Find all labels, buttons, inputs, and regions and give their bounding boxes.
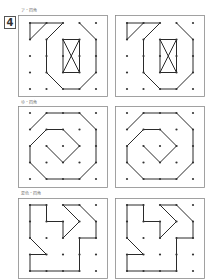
grid-dot	[45, 161, 47, 163]
grid-dot	[126, 128, 128, 130]
grid-dot	[192, 161, 194, 163]
grid-dot	[126, 88, 128, 90]
grid-dot	[192, 22, 194, 24]
grid-dot	[29, 88, 31, 90]
grid-dot	[159, 22, 161, 24]
grid-dot	[159, 128, 161, 130]
grid-dot	[78, 220, 80, 222]
grid-dot	[29, 161, 31, 163]
grid-dot	[29, 55, 31, 57]
grid-panel-2-answer	[116, 107, 205, 188]
grid-dot	[45, 88, 47, 90]
grid-dot	[95, 55, 97, 57]
grid-dot	[159, 204, 161, 206]
grid-dot	[126, 237, 128, 239]
grid-dot	[62, 270, 64, 272]
grid-dot	[29, 253, 31, 255]
grid-dot	[78, 22, 80, 24]
grid-dot	[29, 270, 31, 272]
grid-dot	[142, 204, 144, 206]
grid-dot	[29, 71, 31, 73]
grid-dot	[45, 178, 47, 180]
grid-dot	[159, 71, 161, 73]
grid-dot	[45, 237, 47, 239]
grid-dot	[175, 55, 177, 57]
grid-dot	[62, 38, 64, 40]
grid-dot	[45, 270, 47, 272]
grid-dot	[126, 22, 128, 24]
grid-dot	[142, 253, 144, 255]
grid-dot	[126, 38, 128, 40]
grid-dot	[142, 38, 144, 40]
grid-dot	[78, 128, 80, 130]
grid-dot	[126, 220, 128, 222]
grid-dot	[62, 253, 64, 255]
grid-dot	[95, 253, 97, 255]
grid-dot	[78, 55, 80, 57]
grid-dot	[29, 128, 31, 130]
grid-dot	[159, 220, 161, 222]
grid-dot	[95, 220, 97, 222]
grid-dot	[95, 88, 97, 90]
grid-dot	[29, 237, 31, 239]
grid-dot	[62, 161, 64, 163]
grid-dot	[45, 204, 47, 206]
grid-dot	[175, 237, 177, 239]
grid-dot	[175, 128, 177, 130]
grid-dot	[159, 178, 161, 180]
grid-dot	[45, 253, 47, 255]
grid-dot	[95, 204, 97, 206]
grid-dot	[126, 204, 128, 206]
grid-dot	[78, 112, 80, 114]
grid-dot	[62, 145, 64, 147]
grid-dot	[95, 71, 97, 73]
grid-dot	[192, 253, 194, 255]
grid-dot	[142, 55, 144, 57]
grid-dot	[159, 88, 161, 90]
grid-dot	[126, 71, 128, 73]
grid-dot	[95, 178, 97, 180]
grid-panel-3-model	[19, 199, 108, 279]
grid-dot	[126, 253, 128, 255]
grid-dot	[45, 145, 47, 147]
grid-dot	[29, 178, 31, 180]
grid-dot	[78, 88, 80, 90]
grid-dot	[175, 38, 177, 40]
grid-dot	[159, 253, 161, 255]
grid-dot	[45, 55, 47, 57]
grid-dot	[175, 112, 177, 114]
grid-dot	[159, 55, 161, 57]
grid-dot	[175, 71, 177, 73]
grid-dot	[78, 145, 80, 147]
grid-dot	[192, 220, 194, 222]
grid-dot	[45, 71, 47, 73]
grid-dot	[95, 112, 97, 114]
grid-dot	[78, 237, 80, 239]
grid-dot	[78, 204, 80, 206]
grid-panel-1-answer	[116, 16, 205, 97]
grid-dot	[78, 253, 80, 255]
grid-dot	[142, 71, 144, 73]
grid-dot	[78, 270, 80, 272]
grid-dot	[78, 161, 80, 163]
grid-dot	[126, 270, 128, 272]
grid-dot	[29, 22, 31, 24]
grid-dot	[142, 128, 144, 130]
grid-dot	[45, 22, 47, 24]
dot-grid-puzzle-board	[0, 0, 208, 280]
grid-dot	[142, 178, 144, 180]
grid-dot	[142, 161, 144, 163]
grid-dot	[29, 220, 31, 222]
grid-dot	[159, 112, 161, 114]
grid-dot	[159, 161, 161, 163]
grid-dot	[62, 220, 64, 222]
grid-dot	[192, 128, 194, 130]
grid-dot	[175, 204, 177, 206]
grid-dot	[192, 270, 194, 272]
grid-dot	[175, 220, 177, 222]
grid-panel-1-model	[19, 16, 108, 97]
grid-dot	[126, 112, 128, 114]
grid-dot	[142, 220, 144, 222]
grid-dot	[78, 178, 80, 180]
grid-dot	[62, 55, 64, 57]
